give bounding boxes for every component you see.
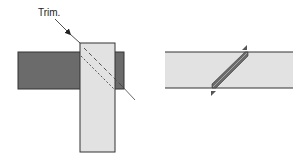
trim-callout-leader bbox=[70, 34, 80, 43]
left-panel: Trim. bbox=[18, 7, 135, 152]
trim-joint-diagram: Trim. bbox=[0, 0, 308, 159]
trim-callout-arrow bbox=[55, 19, 70, 34]
right-panel bbox=[165, 45, 293, 96]
diagram-canvas: Trim. bbox=[0, 0, 308, 159]
cut-line-extension bbox=[121, 85, 135, 100]
bottom-cut-marker-icon bbox=[211, 91, 216, 96]
light-vertical-board bbox=[80, 43, 115, 152]
trim-label: Trim. bbox=[38, 7, 60, 18]
top-cut-marker-icon bbox=[242, 45, 247, 50]
